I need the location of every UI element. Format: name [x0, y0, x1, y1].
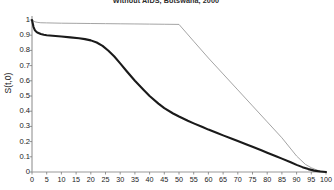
- series-without-aids-survival: [32, 20, 326, 172]
- series-with-aids-survival: [32, 20, 326, 172]
- data-series-group: [32, 20, 326, 172]
- axes: [30, 16, 327, 175]
